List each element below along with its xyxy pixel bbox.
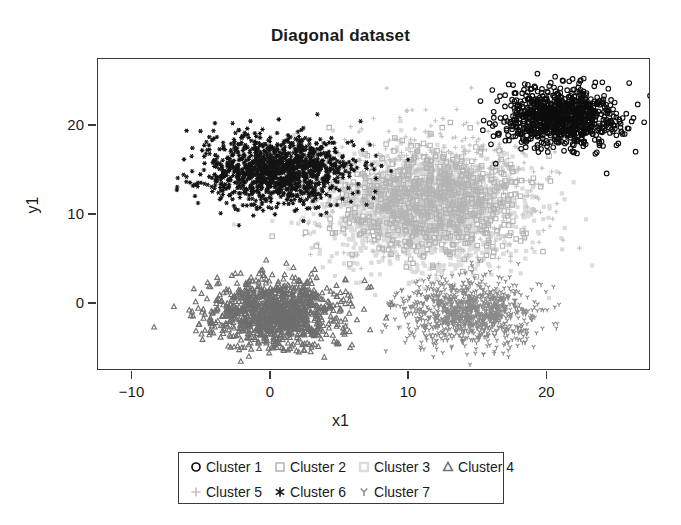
legend-item-label: Cluster 6 xyxy=(290,484,346,500)
legend-item-cluster-1[interactable]: Cluster 1 xyxy=(188,459,272,475)
y-tick-mark xyxy=(88,213,96,214)
legend-item-cluster-6[interactable]: Cluster 6 xyxy=(272,484,356,500)
legend-item-label: Cluster 3 xyxy=(374,459,430,475)
x-tick-label: −10 xyxy=(102,383,162,400)
legend-item-label: Cluster 7 xyxy=(374,484,430,500)
legend-row: Cluster 1Cluster 2Cluster 3Cluster 4 xyxy=(179,454,503,480)
x-tick-label: 0 xyxy=(240,383,300,400)
x-axis-label: x1 xyxy=(0,412,681,430)
plot-area xyxy=(97,58,650,370)
legend-item-label: Cluster 2 xyxy=(290,459,346,475)
page-title: Diagonal dataset xyxy=(0,26,681,46)
y-mark-icon xyxy=(356,484,372,500)
y-axis-label: y1 xyxy=(24,165,42,245)
x-tick-mark xyxy=(131,371,132,379)
legend-item-label: Cluster 1 xyxy=(206,459,262,475)
legend-item-label: Cluster 4 xyxy=(458,459,514,475)
y-tick-mark xyxy=(88,124,96,125)
x-tick-mark xyxy=(407,371,408,379)
legend-item-cluster-5[interactable]: Cluster 5 xyxy=(188,484,272,500)
legend: Cluster 1Cluster 2Cluster 3Cluster 4Clus… xyxy=(178,452,504,504)
y-tick-label: 20 xyxy=(31,116,84,133)
square-open-icon xyxy=(272,459,288,475)
scatter-plot-figure: Diagonal dataset −100102001020 x1 y1 Clu… xyxy=(0,0,681,525)
data-points-canvas xyxy=(98,59,650,370)
plus-icon xyxy=(188,484,204,500)
x-tick-mark xyxy=(269,371,270,379)
legend-item-label: Cluster 5 xyxy=(206,484,262,500)
x-tick-label: 20 xyxy=(516,383,576,400)
square-filled-light-icon xyxy=(356,459,372,475)
circle-open-icon xyxy=(188,459,204,475)
y-tick-label: 0 xyxy=(31,294,84,311)
y-tick-mark xyxy=(88,302,96,303)
asterisk-icon xyxy=(272,484,288,500)
triangle-open-icon xyxy=(440,459,456,475)
x-tick-mark xyxy=(546,371,547,379)
x-tick-label: 10 xyxy=(378,383,438,400)
legend-row: Cluster 5Cluster 6Cluster 7 xyxy=(179,479,503,505)
legend-item-cluster-2[interactable]: Cluster 2 xyxy=(272,459,356,475)
legend-item-cluster-3[interactable]: Cluster 3 xyxy=(356,459,440,475)
legend-item-cluster-4[interactable]: Cluster 4 xyxy=(440,459,524,475)
legend-item-cluster-7[interactable]: Cluster 7 xyxy=(356,484,440,500)
